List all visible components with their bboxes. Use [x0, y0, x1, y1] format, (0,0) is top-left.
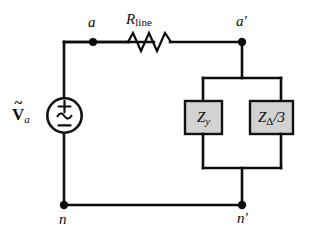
node-label-n-prime: n′: [237, 211, 248, 226]
resistor-label: Rline: [126, 12, 152, 28]
node-dot-n-prime: [238, 201, 246, 209]
wye-impedance-label-main: Z: [197, 109, 205, 125]
node-dot-n: [60, 201, 68, 209]
resistor-label-subscript: line: [135, 16, 152, 28]
delta-impedance-label: ZΔ/3: [250, 110, 293, 127]
source-label: ~Va: [12, 106, 30, 125]
delta-impedance-label-suffix: /3: [273, 109, 285, 125]
wye-impedance-label-subscript: y: [205, 115, 210, 127]
node-label-a-prime: a′: [236, 14, 247, 29]
source-label-accent: ~: [14, 96, 22, 110]
node-dot-a: [89, 38, 97, 46]
node-dot-a-prime: [238, 38, 246, 46]
source-label-subscript: a: [24, 113, 30, 125]
resistor-label-main: R: [126, 11, 135, 27]
circuit-diagram: a a′ n n′ Rline ~Va Zy ZΔ/3: [0, 0, 314, 240]
node-label-a: a: [88, 15, 96, 30]
wye-impedance-label: Zy: [185, 110, 222, 127]
node-label-n: n: [59, 212, 67, 227]
source-label-main-wrap: ~V: [12, 106, 24, 123]
